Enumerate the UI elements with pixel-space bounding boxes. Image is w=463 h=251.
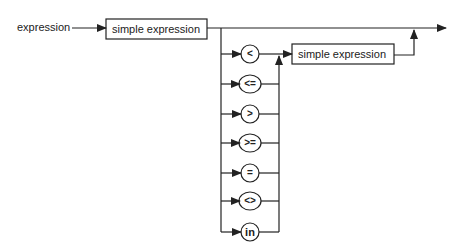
operator-label-le: <= bbox=[240, 78, 260, 90]
syntax-diagram bbox=[0, 0, 463, 251]
operator-label-eq: = bbox=[240, 167, 260, 179]
operator-label-lt: < bbox=[240, 48, 260, 60]
operator-label-ge: >= bbox=[240, 137, 260, 149]
simple-expression-label-2: simple expression bbox=[298, 48, 386, 60]
operator-label-in: in bbox=[240, 226, 260, 238]
rule-name-label: expression bbox=[17, 21, 70, 33]
operator-label-ne: <> bbox=[240, 195, 260, 207]
simple-expression-label-1: simple expression bbox=[112, 23, 200, 35]
return-line bbox=[394, 30, 414, 55]
operator-label-gt: > bbox=[240, 108, 260, 120]
